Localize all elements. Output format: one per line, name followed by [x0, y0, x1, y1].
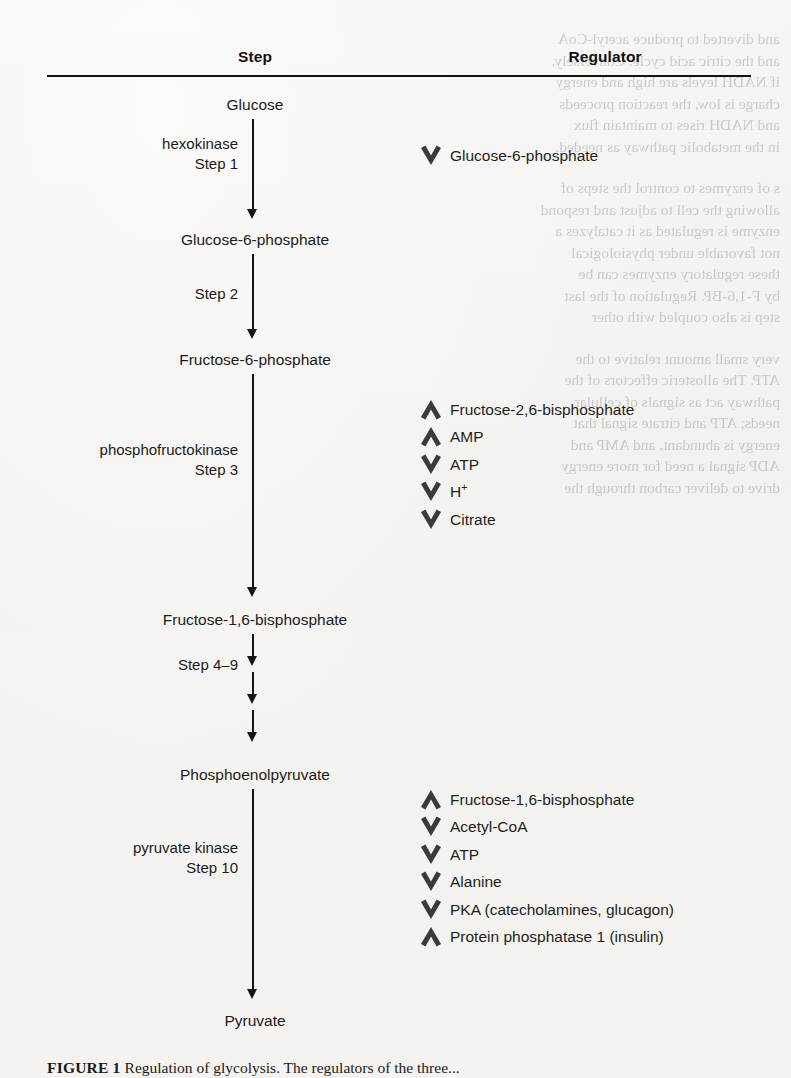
reaction-arrow [245, 634, 261, 666]
arrow-shaft [252, 119, 254, 210]
regulator-row: Citrate [419, 506, 496, 532]
arrow-head-icon [247, 989, 257, 999]
chevron-down-icon [419, 452, 443, 477]
bleed-through-paragraph: very small amount relative to the ATP. T… [470, 348, 780, 499]
chevron-up-icon [419, 924, 443, 949]
chevron-down-icon [419, 842, 443, 867]
enzyme-step-line: Step 3 [0, 460, 238, 480]
enzyme-step-label: phosphofructokinaseStep 3 [0, 440, 238, 480]
arrow-head-icon [247, 329, 257, 339]
regulator-label: H+ [450, 483, 467, 500]
page-bleed-through-text: and diverted to produce acetyl-CoA and t… [470, 28, 780, 518]
regulator-row: Fructose-1,6-bisphosphate [419, 786, 634, 812]
chevron-up-icon [419, 424, 443, 449]
regulator-row: PKA (catecholamines, glucagon) [419, 896, 674, 922]
regulator-row: AMP [419, 424, 484, 450]
enzyme-step-label: Step 2 [0, 284, 238, 304]
arrow-shaft [252, 374, 254, 588]
regulator-label: AMP [450, 428, 484, 445]
enzyme-step-label: pyruvate kinaseStep 10 [0, 838, 238, 878]
enzyme-step-line: pyruvate kinase [0, 838, 238, 858]
chevron-down-icon [419, 814, 443, 839]
regulator-label: ATP [450, 846, 479, 863]
enzyme-step-label: Step 4–9 [0, 655, 238, 675]
regulator-row: Fructose-2,6-bisphosphate [419, 396, 634, 422]
regulator-row: ATP [419, 841, 479, 867]
enzyme-step-line: Step 1 [0, 154, 238, 174]
metabolite-label: Fructose-1,6-bisphosphate [110, 611, 400, 629]
figure-caption: FIGURE 1 Regulation of glycolysis. The r… [47, 1058, 747, 1078]
chevron-down-icon [419, 507, 443, 532]
regulator-label: Fructose-2,6-bisphosphate [450, 401, 634, 418]
chevron-up-icon [419, 787, 443, 812]
figure-caption-label: FIGURE 1 [47, 1059, 125, 1076]
regulator-row: Glucose-6-phosphate [419, 142, 598, 168]
bleed-through-paragraph: s of enzymes to control the steps of all… [470, 177, 780, 328]
arrow-shaft [252, 710, 254, 733]
arrow-head-icon [247, 694, 257, 704]
chevron-down-icon [419, 143, 443, 168]
reaction-arrow [245, 789, 261, 999]
metabolite-label: Phosphoenolpyruvate [130, 766, 380, 784]
regulator-label: Fructose-1,6-bisphosphate [450, 791, 634, 808]
enzyme-step-line: Step 10 [0, 858, 238, 878]
metabolite-label: Fructose-6-phosphate [130, 351, 380, 369]
reaction-arrow [245, 374, 261, 597]
regulator-row: Alanine [419, 869, 502, 895]
enzyme-step-line: Step 2 [0, 284, 238, 304]
column-header-step: Step [180, 48, 330, 66]
chevron-down-icon [419, 869, 443, 894]
arrow-head-icon [247, 656, 257, 666]
regulator-row: ATP [419, 451, 479, 477]
metabolite-label: Glucose [130, 96, 380, 114]
regulator-row: Protein phosphatase 1 (insulin) [419, 924, 664, 950]
regulator-label: ATP [450, 456, 479, 473]
enzyme-step-label: hexokinaseStep 1 [0, 134, 238, 174]
regulator-row: Acetyl-CoA [419, 814, 528, 840]
regulator-label: Protein phosphatase 1 (insulin) [450, 928, 664, 945]
regulator-row: H+ [419, 479, 467, 505]
regulator-label: Acetyl-CoA [450, 818, 528, 835]
figure-caption-text: Regulation of glycolysis. The regulators… [125, 1059, 460, 1076]
enzyme-step-line: phosphofructokinase [0, 440, 238, 460]
reaction-arrow [245, 119, 261, 219]
arrow-shaft [252, 634, 254, 657]
chevron-down-icon [419, 897, 443, 922]
reaction-arrow [245, 710, 261, 742]
regulator-label: Glucose-6-phosphate [450, 147, 598, 164]
arrow-head-icon [247, 587, 257, 597]
figure-page: and diverted to produce acetyl-CoA and t… [0, 0, 791, 1078]
enzyme-step-line: Step 4–9 [0, 655, 238, 675]
chevron-up-icon [419, 397, 443, 422]
column-header-regulator: Regulator [520, 48, 690, 66]
regulator-label: Alanine [450, 873, 502, 890]
regulator-label: PKA (catecholamines, glucagon) [450, 901, 674, 918]
arrow-shaft [252, 789, 254, 990]
arrow-head-icon [247, 209, 257, 219]
reaction-arrow [245, 254, 261, 339]
regulator-label: Citrate [450, 511, 496, 528]
arrow-shaft [252, 672, 254, 695]
enzyme-step-line: hexokinase [0, 134, 238, 154]
metabolite-label: Glucose-6-phosphate [130, 231, 380, 249]
arrow-shaft [252, 254, 254, 330]
header-rule-divider [47, 75, 751, 77]
chevron-down-icon [419, 479, 443, 504]
arrow-head-icon [247, 732, 257, 742]
metabolite-label: Pyruvate [130, 1012, 380, 1030]
reaction-arrow [245, 672, 261, 704]
